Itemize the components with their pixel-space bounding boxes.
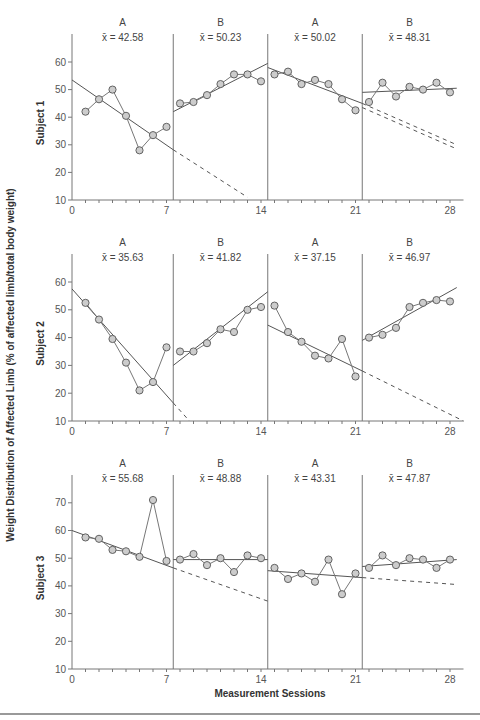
data-point [109, 86, 116, 93]
phase-label: B [406, 17, 413, 28]
x-tick-label: 14 [255, 426, 267, 437]
phase-mean-label: x̄ = 42.58 [102, 32, 144, 43]
phase-mean-label: x̄ = 46.97 [389, 252, 431, 263]
data-point [217, 80, 224, 87]
data-point [217, 326, 224, 333]
phase-mean-label: x̄ = 50.23 [200, 32, 242, 43]
y-tick-label: 10 [55, 664, 67, 675]
data-point [311, 578, 318, 585]
data-point [433, 296, 440, 303]
trend-projection-line [362, 371, 463, 421]
x-tick-label: 14 [255, 205, 267, 216]
data-point [311, 76, 318, 83]
panel-1: 10203040506007142128Subject 1Ax̄ = 42.58… [35, 17, 464, 216]
data-point [95, 535, 102, 542]
x-tick-label: 28 [444, 426, 456, 437]
data-point [244, 71, 251, 78]
data-point [446, 298, 453, 305]
phase-label: B [217, 458, 224, 469]
y-tick-label: 70 [55, 497, 67, 508]
data-point [257, 78, 264, 85]
data-point [284, 575, 291, 582]
data-point [433, 79, 440, 86]
phase-mean-label: x̄ = 41.82 [200, 252, 242, 263]
data-point [325, 80, 332, 87]
trend-line [362, 288, 457, 341]
panel-2: 10203040506007142128Subject 2Ax̄ = 35.63… [35, 237, 464, 437]
phase-mean-label: x̄ = 55.68 [102, 473, 144, 484]
data-point [271, 302, 278, 309]
y-tick-label: 10 [55, 416, 67, 427]
y-tick-label: 50 [55, 84, 67, 95]
trend-line [268, 325, 363, 371]
y-tick-label: 30 [55, 139, 67, 150]
data-point [190, 550, 197, 557]
data-point [136, 147, 143, 154]
data-point [149, 378, 156, 385]
data-point [406, 303, 413, 310]
y-tick-label: 50 [55, 304, 67, 315]
panel-3: 1020304050607007142128Subject 3Ax̄ = 55.… [35, 458, 464, 685]
phase-label: A [312, 237, 319, 248]
data-point [122, 548, 129, 555]
data-point [149, 496, 156, 503]
x-tick-label: 7 [164, 674, 170, 685]
data-point [352, 107, 359, 114]
data-point [136, 553, 143, 560]
y-tick-label: 40 [55, 112, 67, 123]
y-tick-label: 40 [55, 580, 67, 591]
data-point [163, 123, 170, 130]
x-tick-label: 21 [350, 426, 362, 437]
data-point [365, 564, 372, 571]
data-point [338, 591, 345, 598]
phase-mean-label: x̄ = 50.02 [294, 32, 336, 43]
data-point [109, 335, 116, 342]
data-point [406, 555, 413, 562]
data-point [190, 348, 197, 355]
data-point [325, 556, 332, 563]
data-point [406, 83, 413, 90]
subject-label: Subject 3 [35, 555, 46, 600]
y-tick-label: 60 [55, 525, 67, 536]
subject-label: Subject 2 [35, 321, 46, 366]
data-point [217, 555, 224, 562]
chart-root: 10203040506007142128Subject 1Ax̄ = 42.58… [0, 0, 480, 720]
bottom-divider [0, 713, 480, 715]
data-point [82, 534, 89, 541]
y-tick-label: 30 [55, 608, 67, 619]
phase-mean-label: x̄ = 37.15 [294, 252, 336, 263]
data-point [176, 348, 183, 355]
data-point [298, 80, 305, 87]
subject-label: Subject 1 [35, 100, 46, 145]
data-point [379, 79, 386, 86]
data-point [379, 331, 386, 338]
trend-projection-line [362, 578, 457, 585]
data-point [190, 98, 197, 105]
data-point [379, 552, 386, 559]
phase-label: A [312, 17, 319, 28]
y-tick-label: 60 [55, 277, 67, 288]
phase-label: B [217, 17, 224, 28]
data-point [230, 568, 237, 575]
data-point [284, 328, 291, 335]
data-point [311, 352, 318, 359]
data-point [244, 306, 251, 313]
data-point [365, 334, 372, 341]
y-tick-label: 50 [55, 553, 67, 564]
trend-projection-line [173, 403, 189, 421]
data-point [325, 355, 332, 362]
phase-label: A [119, 458, 126, 469]
data-point [271, 564, 278, 571]
y-tick-label: 10 [55, 195, 67, 206]
data-point [95, 316, 102, 323]
phase-mean-label: x̄ = 47.87 [389, 473, 431, 484]
x-tick-label: 21 [350, 205, 362, 216]
data-point [203, 340, 210, 347]
data-point [230, 71, 237, 78]
x-tick-label: 0 [69, 426, 75, 437]
data-point [257, 303, 264, 310]
data-point [203, 562, 210, 569]
x-tick-label: 7 [164, 205, 170, 216]
x-tick-label: 28 [444, 205, 456, 216]
data-point [163, 557, 170, 564]
